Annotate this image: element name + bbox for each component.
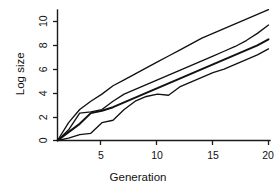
x-tick-label-10: 10 bbox=[148, 150, 166, 161]
x-tick-label-15: 15 bbox=[204, 150, 222, 161]
series-group bbox=[58, 10, 269, 141]
x-tick-label-20: 20 bbox=[259, 150, 277, 161]
series-line-series-3 bbox=[58, 39, 269, 140]
x-axis-title: Generation bbox=[98, 172, 178, 184]
y-axis-title: Log size bbox=[15, 44, 27, 104]
y-tick-label-4: 4 bbox=[38, 86, 49, 100]
y-tick-label-6: 6 bbox=[38, 62, 49, 76]
line-chart: 0 2 4 6 8 10 5 10 15 20 Log size Generat… bbox=[0, 0, 277, 193]
y-tick-label-10: 10 bbox=[38, 11, 49, 31]
y-tick-label-8: 8 bbox=[38, 38, 49, 52]
y-tick-label-0: 0 bbox=[38, 133, 49, 147]
x-tick-label-5: 5 bbox=[94, 150, 108, 161]
series-line-series-4 bbox=[58, 49, 269, 141]
series-line-series-2 bbox=[58, 25, 269, 140]
series-line-series-1 bbox=[58, 10, 269, 141]
y-tick-label-2: 2 bbox=[38, 110, 49, 124]
